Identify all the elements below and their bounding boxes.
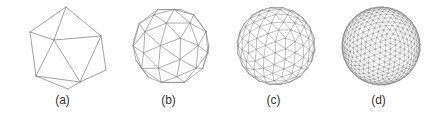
caption-c: (c): [221, 93, 326, 107]
geodesic-sphere-level-3: [326, 0, 431, 95]
icosahedron-wireframe: [10, 0, 115, 95]
panel-d: (d): [326, 0, 431, 113]
caption-a: (a): [10, 93, 115, 107]
panel-b: (b): [116, 0, 221, 113]
geodesic-sphere-level-1: [116, 0, 221, 95]
caption-d: (d): [326, 93, 431, 107]
panel-a: (a): [10, 0, 115, 113]
geodesic-sphere-level-2: [221, 0, 326, 95]
panel-c: (c): [221, 0, 326, 113]
caption-b: (b): [116, 93, 221, 107]
